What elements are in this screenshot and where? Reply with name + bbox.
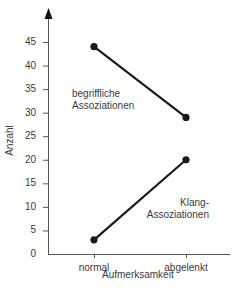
y-axis-arrow-icon <box>45 8 53 19</box>
series-label-klang: Klang- Assoziationen <box>142 197 209 221</box>
data-point <box>90 236 97 243</box>
y-axis-label: Anzahl <box>4 116 15 166</box>
x-axis-label: Aufmerksamkeit <box>102 269 174 280</box>
series-label-line: begriffliche <box>72 88 134 100</box>
series-label-line: Klang- <box>142 197 209 209</box>
y-tick-label: 35 <box>10 83 36 94</box>
data-point <box>182 114 189 121</box>
y-tick-label: 10 <box>10 201 36 212</box>
y-tick-label: 5 <box>10 224 36 235</box>
data-point <box>182 156 189 163</box>
y-tick-label: 15 <box>10 177 36 188</box>
series-label-line: Assoziationen <box>142 209 209 221</box>
y-tick-label: 0 <box>10 248 36 259</box>
y-tick-label: 45 <box>10 36 36 47</box>
series-label-begriffliche: begriffliche Assoziationen <box>72 88 134 112</box>
y-ticks <box>43 43 48 231</box>
series-label-line: Assoziationen <box>72 100 134 112</box>
y-tick-label: 40 <box>10 60 36 71</box>
data-point <box>90 43 97 50</box>
